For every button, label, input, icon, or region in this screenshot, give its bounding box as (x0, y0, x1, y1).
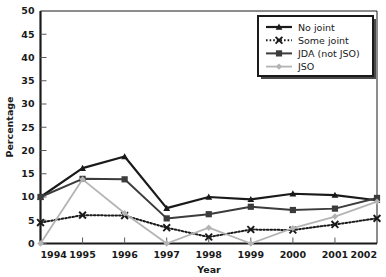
y-tick-label: 50 (21, 5, 35, 16)
x-tick-label: 1998 (196, 249, 223, 260)
data-point-marker (164, 215, 170, 221)
chart-page: 05101520253035404550 1994199519961997199… (0, 0, 386, 277)
x-tick-label: 1995 (69, 249, 95, 260)
legend-entry-label: JDA (not JSO) (297, 48, 360, 59)
legend-entry-label: JSO (297, 61, 314, 72)
y-tick-label: 40 (21, 52, 35, 63)
legend-entry-label: No joint (298, 22, 335, 33)
x-tick-label: 1994 (41, 249, 68, 260)
x-tick-label: 1996 (111, 249, 138, 260)
data-point-marker (37, 194, 43, 200)
y-tick-label: 10 (21, 191, 35, 202)
y-tick-label: 5 (28, 215, 35, 226)
y-tick-label: 25 (21, 122, 34, 133)
x-axis: 199419951996199719981999200020012002 (41, 238, 378, 260)
data-point-marker (248, 240, 254, 246)
x-tick-label: 1999 (238, 249, 264, 260)
data-point-marker (248, 204, 254, 210)
data-point-marker (206, 224, 212, 230)
chart-legend: No jointSome jointJDA (not JSO)JSO (258, 16, 376, 79)
y-tick-label: 30 (21, 98, 35, 109)
data-point-marker (332, 213, 338, 219)
y-axis-title: Percentage (4, 96, 15, 157)
x-tick-label: 2000 (280, 249, 307, 260)
y-tick-label: 15 (21, 168, 34, 179)
y-tick-label: 45 (21, 29, 34, 40)
legend-entry-label: Some joint (298, 35, 349, 46)
x-tick-label: 1997 (153, 249, 179, 260)
data-point-marker (276, 50, 282, 56)
data-point-marker (122, 176, 128, 182)
y-tick-label: 0 (28, 238, 35, 249)
y-tick-label: 20 (21, 145, 35, 156)
line-chart: 05101520253035404550 1994199519961997199… (0, 0, 386, 277)
x-tick-label: 2002 (351, 249, 377, 260)
series-no-joint (37, 153, 380, 211)
y-axis: 05101520253035404550 (21, 5, 46, 249)
data-point-marker (206, 211, 212, 217)
x-axis-title: Year (196, 264, 221, 275)
data-point-marker (290, 207, 296, 213)
data-point-marker (332, 206, 338, 212)
series-line (41, 157, 378, 209)
y-tick-label: 35 (21, 75, 34, 86)
data-series-group (37, 153, 380, 247)
x-tick-label: 2001 (322, 249, 348, 260)
